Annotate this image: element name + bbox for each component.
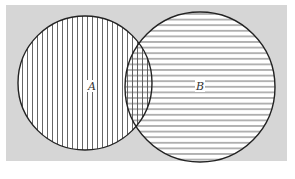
- venn-diagram: A B: [0, 0, 295, 179]
- set-b-label: B: [195, 80, 204, 93]
- set-a-label: A: [87, 80, 96, 93]
